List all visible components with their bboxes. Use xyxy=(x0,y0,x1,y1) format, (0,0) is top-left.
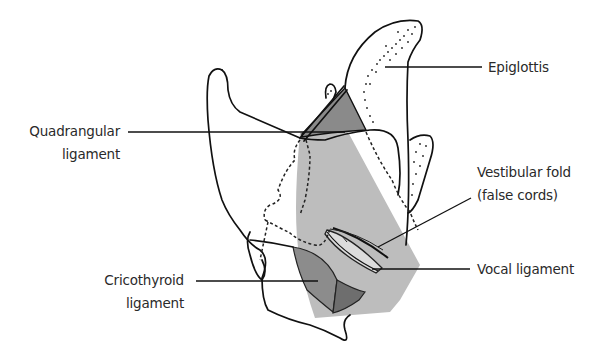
corniculate-shape xyxy=(326,84,337,100)
label-cricothyroid-ligament: Cricothyroid ligament xyxy=(80,269,184,315)
label-cricothyroid-line2: ligament xyxy=(80,292,184,315)
label-quadrangular-ligament: Quadrangular ligament xyxy=(22,120,120,166)
label-quadrangular-line1: Quadrangular xyxy=(22,120,120,143)
label-vocal-ligament: Vocal ligament xyxy=(477,258,574,281)
label-epiglottis: Epiglottis xyxy=(488,56,549,79)
label-quadrangular-line2: ligament xyxy=(22,143,120,166)
label-cricothyroid-line1: Cricothyroid xyxy=(80,269,184,292)
arytenoid-lobe xyxy=(408,135,433,213)
label-vestibular-fold: Vestibular fold (false cords) xyxy=(477,161,571,207)
label-vestibular-line1: Vestibular fold xyxy=(477,161,571,184)
label-vestibular-line2: (false cords) xyxy=(477,184,571,207)
